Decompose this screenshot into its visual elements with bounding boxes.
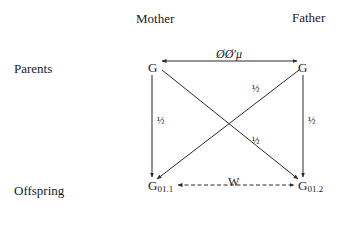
node-offspring-2: G01.2 xyxy=(298,179,323,194)
offspring-correlation-label: W xyxy=(228,176,239,188)
node-offspring-2-subscript: 01.2 xyxy=(307,184,323,194)
node-mother-genotype: G xyxy=(148,61,157,74)
coef-mother-to-offspring2: ½ xyxy=(252,136,260,146)
coef-father-to-offspring1: ½ xyxy=(252,84,260,94)
node-offspring-1: G01.1 xyxy=(148,179,173,194)
coef-mother-to-offspring1: ½ xyxy=(157,116,165,126)
node-offspring-1-subscript: 01.1 xyxy=(157,184,173,194)
node-offspring-2-base: G xyxy=(298,178,307,193)
coef-father-to-offspring2: ½ xyxy=(308,116,316,126)
node-father-genotype: G xyxy=(298,61,307,74)
parent-correlation-label: ØØ′μ xyxy=(216,48,242,60)
node-offspring-1-base: G xyxy=(148,178,157,193)
